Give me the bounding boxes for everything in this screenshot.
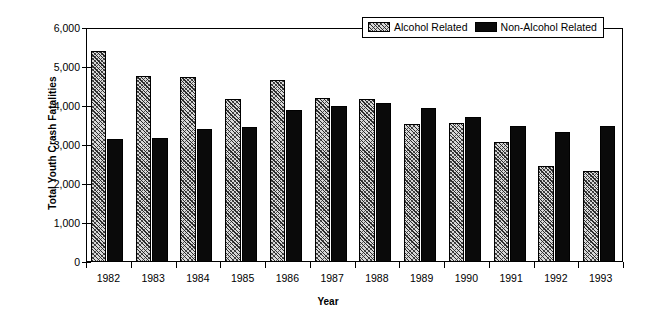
bar-1991-alcohol-related xyxy=(494,142,510,263)
x-axis-tick xyxy=(265,262,266,268)
x-axis-ticks xyxy=(86,262,623,270)
x-axis-tick xyxy=(489,262,490,268)
legend-item-alcohol-related: Alcohol Related xyxy=(368,21,468,33)
x-axis-tick xyxy=(399,262,400,268)
x-axis-tick xyxy=(623,262,624,268)
legend-item-non-alcohol-related: Non-Alcohol Related xyxy=(475,21,597,33)
bar-1988-alcohol-related xyxy=(359,99,375,262)
x-axis-tick xyxy=(310,262,311,268)
bar-1984-alcohol-related xyxy=(180,77,196,262)
y-axis-tick-label: 2,000 xyxy=(30,178,80,190)
x-axis-tick-label-1990: 1990 xyxy=(455,272,478,284)
bar-1993-alcohol-related xyxy=(583,171,599,262)
x-axis-tick xyxy=(131,262,132,268)
bar-1984-non-alcohol-related xyxy=(197,129,213,262)
bar-1991-non-alcohol-related xyxy=(510,126,526,263)
x-axis-tick-label-1989: 1989 xyxy=(410,272,433,284)
x-axis-tick-label-1983: 1983 xyxy=(141,272,164,284)
chart-legend: Alcohol Related Non-Alcohol Related xyxy=(362,17,604,38)
bar-1985-non-alcohol-related xyxy=(242,127,258,262)
x-axis-tick xyxy=(355,262,356,268)
bar-1990-non-alcohol-related xyxy=(465,117,481,262)
x-axis-tick xyxy=(444,262,445,268)
x-axis-tick-label-1982: 1982 xyxy=(97,272,120,284)
bar-1993-non-alcohol-related xyxy=(600,126,616,263)
x-axis-tick xyxy=(86,262,87,268)
y-axis-tick-label: 0 xyxy=(30,256,80,268)
x-axis-tick-label-1991: 1991 xyxy=(499,272,522,284)
x-axis-tick-label-1986: 1986 xyxy=(276,272,299,284)
y-axis-tick-label: 3,000 xyxy=(30,139,80,151)
bar-1989-alcohol-related xyxy=(404,124,420,262)
x-axis-tick-label-1984: 1984 xyxy=(186,272,209,284)
bar-1982-non-alcohol-related xyxy=(107,139,123,262)
x-axis-title: Year xyxy=(0,296,656,307)
bar-1986-non-alcohol-related xyxy=(286,110,302,262)
x-axis-tick xyxy=(534,262,535,268)
y-axis-tick-label: 6,000 xyxy=(30,22,80,34)
bar-1982-alcohol-related xyxy=(91,51,107,262)
x-axis-tick xyxy=(220,262,221,268)
x-axis-tick-label-1993: 1993 xyxy=(589,272,612,284)
bar-1986-alcohol-related xyxy=(270,80,286,262)
bar-1983-alcohol-related xyxy=(136,76,152,262)
bar-1987-non-alcohol-related xyxy=(331,106,347,262)
solid-black-swatch-icon xyxy=(475,22,497,32)
x-axis-tick-label-1992: 1992 xyxy=(544,272,567,284)
bar-1989-non-alcohol-related xyxy=(421,108,437,262)
bar-1992-alcohol-related xyxy=(538,166,554,262)
bar-1990-alcohol-related xyxy=(449,123,465,262)
y-axis-tick-label: 4,000 xyxy=(30,100,80,112)
bar-1983-non-alcohol-related xyxy=(152,138,168,262)
x-axis-tick xyxy=(578,262,579,268)
bar-1992-non-alcohol-related xyxy=(555,132,571,262)
x-axis-tick-label-1988: 1988 xyxy=(365,272,388,284)
legend-label-non-alcohol-related: Non-Alcohol Related xyxy=(501,21,597,33)
x-axis-tick-label-1985: 1985 xyxy=(231,272,254,284)
x-axis-tick-labels: 1982198319841985198619871988198919901991… xyxy=(86,272,623,288)
bar-series-container xyxy=(86,28,623,262)
bar-1985-alcohol-related xyxy=(225,99,241,262)
x-axis-tick-label-1987: 1987 xyxy=(320,272,343,284)
bar-1987-alcohol-related xyxy=(315,98,331,262)
hatched-swatch-icon xyxy=(368,22,390,32)
bar-1988-non-alcohol-related xyxy=(376,103,392,263)
youth-crash-fatalities-bar-chart: Total Youth Crash Fatalities 01,0002,000… xyxy=(0,0,656,328)
legend-label-alcohol-related: Alcohol Related xyxy=(394,21,468,33)
y-axis-tick-label: 1,000 xyxy=(30,217,80,229)
x-axis-tick xyxy=(176,262,177,268)
y-axis-tick-label: 5,000 xyxy=(30,61,80,73)
